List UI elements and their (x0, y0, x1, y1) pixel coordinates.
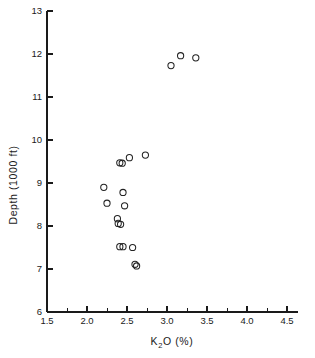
x-tick-label: 1.5 (40, 315, 53, 326)
data-point (120, 189, 126, 195)
data-point (122, 203, 128, 209)
data-point (168, 63, 174, 69)
data-point (126, 155, 132, 161)
data-point (130, 244, 136, 250)
y-tick-label: 12 (31, 48, 42, 59)
data-point (134, 263, 140, 269)
y-axis-ticks: 678910111213 (31, 5, 53, 317)
data-point (142, 152, 148, 158)
y-axis-title: Depth (1000 ft) (7, 145, 19, 224)
x-tick-label: 2.5 (120, 315, 133, 326)
scatter-chart: 678910111213 1.52.02.53.03.54.04.5 Depth… (0, 0, 315, 358)
data-point (132, 261, 138, 267)
data-point (178, 53, 184, 59)
axes-group (47, 11, 298, 312)
data-point (104, 200, 110, 206)
x-axis-ticks: 1.52.02.53.03.54.04.5 (40, 306, 293, 326)
y-tick-label: 11 (32, 91, 42, 102)
data-points-group (101, 53, 199, 269)
data-point (193, 55, 199, 61)
x-axis-title: K2O (%) (151, 335, 194, 350)
y-tick-label: 13 (31, 5, 42, 16)
x-tick-label: 4.5 (280, 315, 293, 326)
x-axis-title-pre: K (151, 335, 159, 347)
y-tick-label: 10 (31, 134, 42, 145)
y-tick-label: 8 (37, 220, 42, 231)
y-tick-label: 7 (37, 263, 42, 274)
plot-area: 678910111213 1.52.02.53.03.54.04.5 Depth… (0, 0, 315, 358)
x-axis-title-post: O (%) (163, 335, 193, 347)
x-tick-label: 3.0 (160, 315, 173, 326)
data-point (101, 184, 107, 190)
x-tick-label: 3.5 (200, 315, 213, 326)
x-tick-label: 2.0 (80, 315, 93, 326)
x-tick-label: 4.0 (240, 315, 253, 326)
y-tick-label: 9 (37, 177, 42, 188)
